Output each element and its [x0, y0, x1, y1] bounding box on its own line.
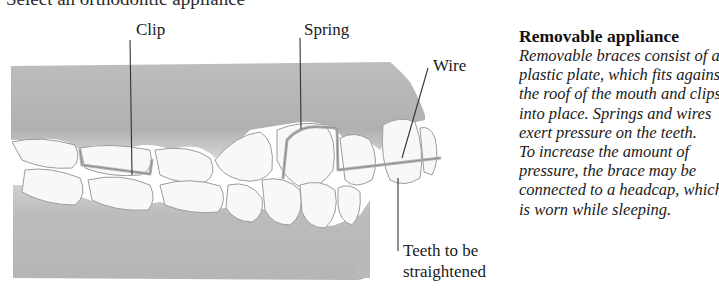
caption-line: To increase the amount of [519, 142, 719, 161]
label-spring: Spring [304, 20, 349, 40]
caption-line: the roof of the mouth and clips [519, 84, 719, 103]
caption-title: Removable appliance [519, 26, 719, 46]
label-clip: Clip [136, 20, 165, 40]
caption-line: exert pressure on the teeth. [519, 123, 719, 142]
caption-line: connected to a headcap, which [519, 180, 719, 199]
caption-line: pressure, the brace may be [519, 161, 719, 180]
caption-body: Removable braces consist of a plastic pl… [519, 46, 719, 219]
caption-line: Removable braces consist of a [519, 46, 719, 65]
label-teeth-line2: straightened [403, 262, 486, 282]
caption-line: plastic plate, which fits against [519, 65, 719, 84]
label-teeth-line1: Teeth to be [403, 241, 478, 261]
sidebar-caption: Removable appliance Removable braces con… [519, 26, 719, 219]
caption-line: into place. Springs and wires [519, 104, 719, 123]
label-wire: Wire [433, 56, 466, 76]
caption-line: is worn while sleeping. [519, 200, 719, 219]
